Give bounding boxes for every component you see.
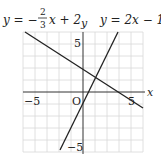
linear-functions-graph: x y −5 5 5 −5 O y = − 2 3 x + 2 y = 2x −… <box>0 0 161 160</box>
svg-text:x + 2: x + 2 <box>49 13 81 27</box>
origin-label: O <box>72 95 81 108</box>
tick-y-neg5: −5 <box>67 141 83 154</box>
tick-x-5: 5 <box>128 95 135 108</box>
x-axis-label: x <box>147 86 154 99</box>
line-y-neg2-3x-plus-2 <box>25 32 143 108</box>
tick-x-neg5: −5 <box>24 95 40 108</box>
graph-svg: x y −5 5 5 −5 O y = − 2 3 x + 2 y = 2x −… <box>0 0 161 160</box>
svg-text:2: 2 <box>40 7 46 17</box>
line-y-2x-minus-1 <box>60 32 118 150</box>
svg-text:3: 3 <box>40 20 46 30</box>
equation-2-label: y = 2x − 1 <box>99 13 161 27</box>
svg-text:y = −: y = − <box>2 13 38 27</box>
tick-y-5: 5 <box>74 37 81 50</box>
equation-1-label: y = − 2 3 x + 2 <box>2 7 81 30</box>
y-axis-label: y <box>80 17 88 30</box>
